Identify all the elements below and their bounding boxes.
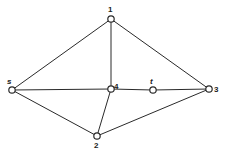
edge-4-2 — [97, 89, 111, 136]
network-graph: 1 s 4 t 3 2 — [0, 0, 226, 155]
edge-s-4 — [12, 89, 111, 90]
edge-s-2 — [12, 90, 97, 136]
label-node-3: 3 — [214, 85, 219, 94]
node-2 — [94, 133, 100, 139]
label-node-4: 4 — [114, 82, 119, 91]
node-labels: 1 s 4 t 3 2 — [7, 5, 219, 150]
node-3 — [206, 86, 212, 92]
edge-1-3 — [111, 19, 209, 89]
edges — [12, 19, 209, 136]
node-1 — [108, 16, 114, 22]
label-node-s: s — [7, 77, 12, 86]
node-t — [150, 87, 156, 93]
edge-s-1 — [12, 19, 111, 90]
edge-t-3 — [153, 89, 209, 90]
label-node-1: 1 — [108, 5, 113, 14]
node-s — [9, 87, 15, 93]
edge-2-3 — [97, 89, 209, 136]
label-node-2: 2 — [94, 141, 99, 150]
label-node-t: t — [150, 77, 153, 86]
